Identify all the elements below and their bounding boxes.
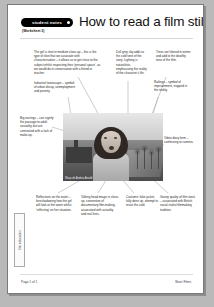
photo-tree [151, 152, 152, 168]
photo-industrial-building [66, 147, 92, 163]
annotation-costume: Costume: fake jacket, fully done up, att… [126, 195, 159, 208]
photo-tree [144, 148, 145, 169]
annotation-video-diary: Video diary form – confessing to camera. [164, 136, 194, 144]
film-still-figure: Wasp dir Andrea Arnold [63, 113, 163, 181]
annotation-girl-close-up: The girl is shot in medium close-up – th… [34, 50, 101, 75]
page-number: Page 1 of 1 [21, 280, 37, 284]
photo-chimney [74, 140, 78, 149]
photo-girl-eye [104, 137, 107, 138]
photo-caption: Wasp dir Andrea Arnold [65, 177, 92, 180]
photo-tree [137, 151, 138, 169]
footer-right-label: Short Films [175, 280, 191, 284]
photo-girl-eye [114, 137, 117, 138]
footer-divider [20, 274, 193, 275]
film-still-image: Wasp dir Andrea Arnold [63, 113, 163, 181]
annotation-grainy-film-stock: Grainy quality of film stock – associate… [160, 195, 196, 212]
annotation-talking-head: Talking head image in close-up, conventi… [81, 195, 119, 216]
annotation-big-earrings: Big earrings – can signify the passage t… [20, 116, 54, 137]
annotation-railings: Railings – symbol of imprisonment, trapp… [154, 80, 191, 93]
side-tab-label: film education [18, 230, 22, 250]
annotation-bare-trees: Trees are littered in winter and add to … [156, 50, 191, 63]
worksheet-page: student notes (Worksheet 3) How to read … [7, 4, 204, 294]
photo-tree [158, 149, 159, 169]
side-tab: film education [14, 213, 25, 267]
annotation-industrial-townscape: Industrial townscape – symbol of urban d… [34, 81, 76, 94]
photo-girl-mouth [109, 146, 114, 150]
annotation-grey-sky: Dull grey sky adds to the cold tone of t… [116, 50, 147, 75]
annotation-reflections-water: Reflections on the water – foreshadowing… [36, 195, 74, 212]
